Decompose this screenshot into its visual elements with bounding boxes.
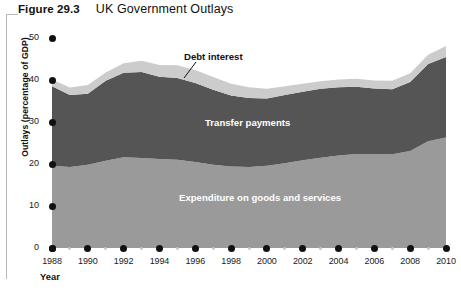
x-tick-minor-dot-2005 — [355, 247, 358, 250]
x-tick-minor-dot-1991 — [104, 247, 107, 250]
label-debt-interest: Debt interest — [184, 51, 243, 62]
x-tick-label-2010: 2010 — [426, 256, 461, 266]
label-transfer-payments: Transfer payments — [205, 117, 290, 128]
x-tick-dot-2000 — [263, 245, 270, 252]
y-tick-label-0: 0 — [17, 242, 39, 252]
y-tick-dot-30 — [49, 119, 56, 126]
x-tick-label-2000: 2000 — [247, 256, 287, 266]
x-tick-label-2006: 2006 — [354, 256, 394, 266]
x-tick-dot-1990 — [84, 245, 91, 252]
x-tick-minor-dot-1993 — [140, 247, 143, 250]
x-tick-minor-dot-2009 — [427, 247, 430, 250]
label-expenditure: Expenditure on goods and services — [179, 192, 341, 203]
x-tick-label-1998: 1998 — [211, 256, 251, 266]
y-tick-label-30: 30 — [17, 116, 39, 126]
x-tick-minor-dot-2007 — [391, 247, 394, 250]
x-tick-label-2004: 2004 — [319, 256, 359, 266]
x-tick-minor-dot-1995 — [176, 247, 179, 250]
y-tick-label-20: 20 — [17, 158, 39, 168]
y-tick-label-50: 50 — [17, 32, 39, 42]
x-axis-title: Year — [40, 271, 60, 282]
x-tick-dot-2004 — [335, 245, 342, 252]
chart-series-group — [52, 46, 446, 248]
x-tick-label-2008: 2008 — [390, 256, 430, 266]
x-tick-dot-1988 — [49, 245, 56, 252]
figure-container: Figure 29.3 UK Government Outlays Outlay… — [0, 0, 461, 291]
x-tick-dot-1996 — [192, 245, 199, 252]
y-tick-dot-50 — [49, 35, 56, 42]
x-tick-dot-2008 — [407, 245, 414, 252]
x-tick-label-2002: 2002 — [283, 256, 323, 266]
x-tick-minor-dot-1999 — [248, 247, 251, 250]
y-tick-dot-20 — [49, 161, 56, 168]
x-tick-label-1992: 1992 — [104, 256, 144, 266]
x-tick-dot-1998 — [228, 245, 235, 252]
x-tick-label-1988: 1988 — [32, 256, 72, 266]
x-tick-dot-2002 — [299, 245, 306, 252]
x-tick-label-1996: 1996 — [175, 256, 215, 266]
x-tick-dot-1992 — [120, 245, 127, 252]
x-tick-minor-dot-1997 — [212, 247, 215, 250]
y-tick-dot-40 — [49, 77, 56, 84]
y-tick-label-10: 10 — [17, 200, 39, 210]
x-tick-dot-2006 — [371, 245, 378, 252]
x-tick-minor-dot-2001 — [283, 247, 286, 250]
y-tick-label-40: 40 — [17, 74, 39, 84]
y-tick-dot-10 — [49, 203, 56, 210]
x-tick-dot-2010 — [443, 245, 450, 252]
x-tick-minor-dot-2003 — [319, 247, 322, 250]
x-tick-label-1994: 1994 — [139, 256, 179, 266]
x-tick-dot-1994 — [156, 245, 163, 252]
x-tick-label-1990: 1990 — [68, 256, 108, 266]
